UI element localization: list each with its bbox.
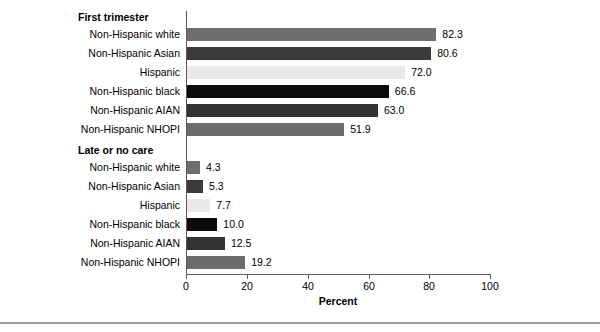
chart-figure: First trimester Non-Hispanic white 82.3 … [0,0,600,332]
x-axis-title: Percent [186,295,490,307]
bar-rect [187,47,431,60]
bar-rect [187,28,436,41]
bar-value-label: 82.3 [442,26,462,43]
bar-rect [187,161,200,174]
bar-value-label: 66.6 [395,83,415,100]
x-tick-60 [369,274,370,279]
bar-rect [187,199,210,212]
bar-value-label: 51.9 [350,121,370,138]
x-tick-20 [247,274,248,279]
x-tick-label-80: 80 [409,280,449,292]
bar-row-label: Non-Hispanic Asian [0,178,180,195]
bar-value-label: 72.0 [411,64,431,81]
footer-divider [0,322,600,324]
bar-value-label: 4.3 [206,159,221,176]
bar-value-label: 63.0 [384,102,404,119]
group-header-late-or-no-care: Late or no care [78,144,153,156]
x-tick-0 [186,274,187,279]
x-tick-label-40: 40 [288,280,328,292]
bar-row-label: Non-Hispanic AIAN [0,235,180,252]
bar-rect [187,123,344,136]
x-tick-100 [490,274,491,279]
bar-row-label: Non-Hispanic black [0,216,180,233]
bar-value-label: 7.7 [216,197,231,214]
y-axis-line [186,11,187,274]
bar-value-label: 19.2 [251,254,271,271]
x-tick-label-100: 100 [470,280,510,292]
bar-rect [187,104,378,117]
bar-row-label: Hispanic [0,64,180,81]
bar-row-label: Non-Hispanic NHOPI [0,121,180,138]
x-tick-label-60: 60 [349,280,389,292]
bar-row-label: Hispanic [0,197,180,214]
bar-rect [187,256,245,269]
bar-value-label: 12.5 [231,235,251,252]
bar-rect [187,85,389,98]
bar-rect [187,180,203,193]
bar-row-label: Non-Hispanic white [0,159,180,176]
bar-value-label: 10.0 [223,216,243,233]
bar-value-label: 5.3 [209,178,224,195]
bar-row-label: Non-Hispanic white [0,26,180,43]
bar-row-label: Non-Hispanic black [0,83,180,100]
plot-area: First trimester Non-Hispanic white 82.3 … [0,0,600,332]
bar-value-label: 80.6 [437,45,457,62]
x-tick-label-0: 0 [166,280,206,292]
bar-row-label: Non-Hispanic NHOPI [0,254,180,271]
bar-row-label: Non-Hispanic AIAN [0,102,180,119]
x-axis-line [186,274,490,275]
x-tick-40 [308,274,309,279]
bar-rect [187,66,405,79]
x-tick-label-20: 20 [227,280,267,292]
group-header-first-trimester: First trimester [78,11,149,23]
bar-row-label: Non-Hispanic Asian [0,45,180,62]
bar-rect [187,237,225,250]
x-tick-80 [429,274,430,279]
bar-rect [187,218,217,231]
